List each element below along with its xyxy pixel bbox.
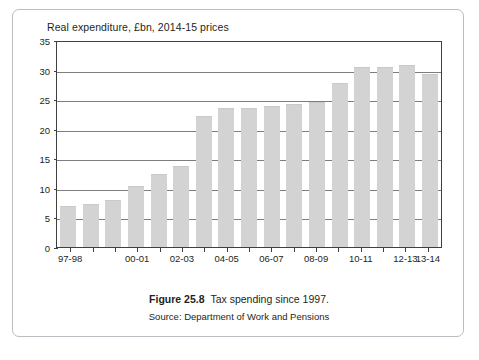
x-axis-tick-label: 13-14 bbox=[416, 253, 440, 264]
bar-series bbox=[57, 42, 441, 247]
chart-axis-title: Real expenditure, £bn, 2014-15 prices bbox=[47, 21, 229, 33]
x-axis-tick-mark bbox=[338, 248, 339, 252]
bar bbox=[173, 166, 189, 247]
figure-source: Source: Department of Work and Pensions bbox=[13, 311, 465, 323]
y-axis-tick-label: 25 bbox=[39, 95, 50, 106]
bar bbox=[377, 67, 393, 247]
bar bbox=[241, 108, 257, 247]
y-axis-tick-label: 10 bbox=[39, 183, 50, 194]
bar bbox=[151, 174, 167, 247]
y-axis-tick-label: 0 bbox=[45, 243, 50, 254]
bar bbox=[354, 67, 370, 247]
bar bbox=[128, 186, 144, 247]
x-axis-tick-mark bbox=[204, 248, 205, 252]
bar bbox=[105, 200, 121, 247]
x-axis-tick-mark bbox=[70, 248, 71, 252]
x-axis-tick-mark bbox=[271, 248, 272, 252]
caption-primary: Figure 25.8 Tax spending since 1997. bbox=[13, 293, 465, 306]
bar bbox=[264, 106, 280, 247]
figure-page: Real expenditure, £bn, 2014-15 prices 05… bbox=[0, 0, 479, 360]
x-axis-tick-mark bbox=[160, 248, 161, 252]
x-axis-tick-label: 08-09 bbox=[304, 253, 328, 264]
x-axis-tick-label: 10-11 bbox=[349, 253, 373, 264]
x-axis-tick-mark bbox=[249, 248, 250, 252]
y-axis-tick-label: 15 bbox=[39, 154, 50, 165]
bar bbox=[332, 83, 348, 247]
x-axis-tick-mark bbox=[294, 248, 295, 252]
x-axis-tick-mark bbox=[93, 248, 94, 252]
x-axis-tick-mark bbox=[115, 248, 116, 252]
bar bbox=[422, 74, 438, 247]
x-axis-tick-mark bbox=[428, 248, 429, 252]
x-axis-tick-mark bbox=[316, 248, 317, 252]
bar-chart: Real expenditure, £bn, 2014-15 prices 05… bbox=[29, 21, 449, 289]
x-axis-tick-label: 06-07 bbox=[259, 253, 283, 264]
x-axis-tick-label: 12-13 bbox=[393, 253, 417, 264]
bar bbox=[218, 108, 234, 247]
bar bbox=[309, 102, 325, 247]
bar bbox=[286, 104, 302, 247]
y-axis-tick-label: 5 bbox=[45, 213, 50, 224]
x-axis-tick-label: 00-01 bbox=[125, 253, 149, 264]
bar bbox=[60, 206, 76, 247]
figure-caption: Figure 25.8 Tax spending since 1997. Sou… bbox=[13, 293, 465, 323]
figure-title: Tax spending since 1997. bbox=[210, 293, 329, 305]
x-axis-tick-label: 02-03 bbox=[170, 253, 194, 264]
x-axis-tick-label: 04-05 bbox=[214, 253, 238, 264]
plot-area bbox=[56, 41, 442, 248]
x-axis-tick-mark bbox=[182, 248, 183, 252]
x-axis-tick-label: 97-98 bbox=[58, 253, 82, 264]
x-axis-tick-mark bbox=[361, 248, 362, 252]
x-axis-tick-mark bbox=[405, 248, 406, 252]
y-axis-tick-label: 30 bbox=[39, 65, 50, 76]
x-axis-tick-mark bbox=[383, 248, 384, 252]
figure-card: Real expenditure, £bn, 2014-15 prices 05… bbox=[12, 9, 464, 337]
x-axis-tick-mark bbox=[137, 248, 138, 252]
y-axis: 05101520253035 bbox=[29, 41, 54, 248]
y-axis-tick-label: 35 bbox=[39, 36, 50, 47]
bar bbox=[399, 65, 415, 247]
x-axis-tick-mark bbox=[227, 248, 228, 252]
figure-number: Figure 25.8 bbox=[149, 293, 204, 305]
bar bbox=[196, 116, 212, 247]
y-axis-tick-label: 20 bbox=[39, 124, 50, 135]
x-axis-labels: 97-9800-0102-0304-0506-0708-0910-1112-13… bbox=[56, 253, 442, 269]
bar bbox=[83, 204, 99, 247]
